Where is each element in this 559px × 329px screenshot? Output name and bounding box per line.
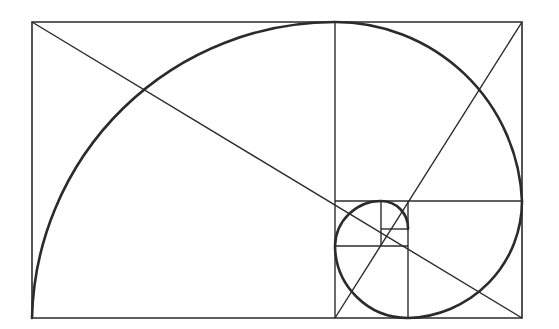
golden-spiral-diagram bbox=[0, 0, 559, 329]
diagonal-line bbox=[32, 22, 522, 318]
diagonal-line bbox=[335, 22, 522, 318]
diagonal-lines bbox=[32, 22, 522, 318]
